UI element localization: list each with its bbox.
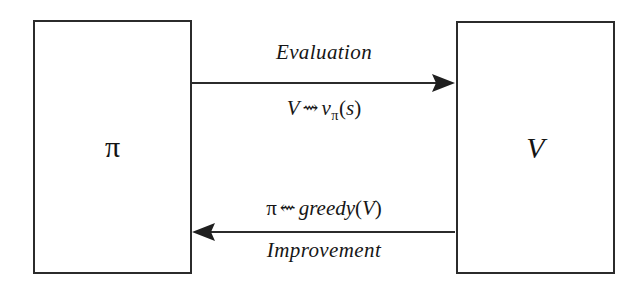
value-box: V	[456, 21, 615, 274]
evaluation-formula-rhs-base: v	[322, 96, 331, 120]
evaluation-formula: V⇝vπ(s)	[192, 96, 456, 124]
evaluation-label: Evaluation	[192, 40, 456, 65]
value-box-label: V	[526, 133, 544, 163]
policy-box: π	[33, 20, 192, 274]
evaluation-formula-lhs: V	[287, 96, 300, 120]
evaluation-arrow-head	[432, 74, 455, 92]
improvement-formula-paren-close: )	[375, 196, 382, 220]
evaluation-formula-rhs-subscript: π	[331, 107, 339, 123]
evaluation-formula-paren-close: )	[354, 96, 361, 120]
squiggly-right-arrow-icon: ⇝	[300, 97, 322, 118]
evaluation-formula-arg: s	[346, 96, 354, 120]
evaluation-arrow	[192, 74, 455, 92]
improvement-formula-lhs: π	[266, 196, 277, 220]
improvement-formula-function: greedy	[299, 196, 355, 220]
improvement-formula: π⇜greedy(V)	[192, 196, 456, 221]
evaluation-formula-paren-open: (	[339, 96, 346, 120]
improvement-label: Improvement	[192, 238, 456, 263]
improvement-formula-paren-open: (	[355, 196, 362, 220]
diagram-canvas: π V Evaluation V⇝vπ(s) π⇜greedy(V) Impro…	[0, 0, 644, 290]
policy-box-label: π	[105, 132, 120, 162]
squiggly-left-arrow-icon: ⇜	[277, 197, 299, 218]
improvement-formula-arg: V	[362, 196, 375, 220]
